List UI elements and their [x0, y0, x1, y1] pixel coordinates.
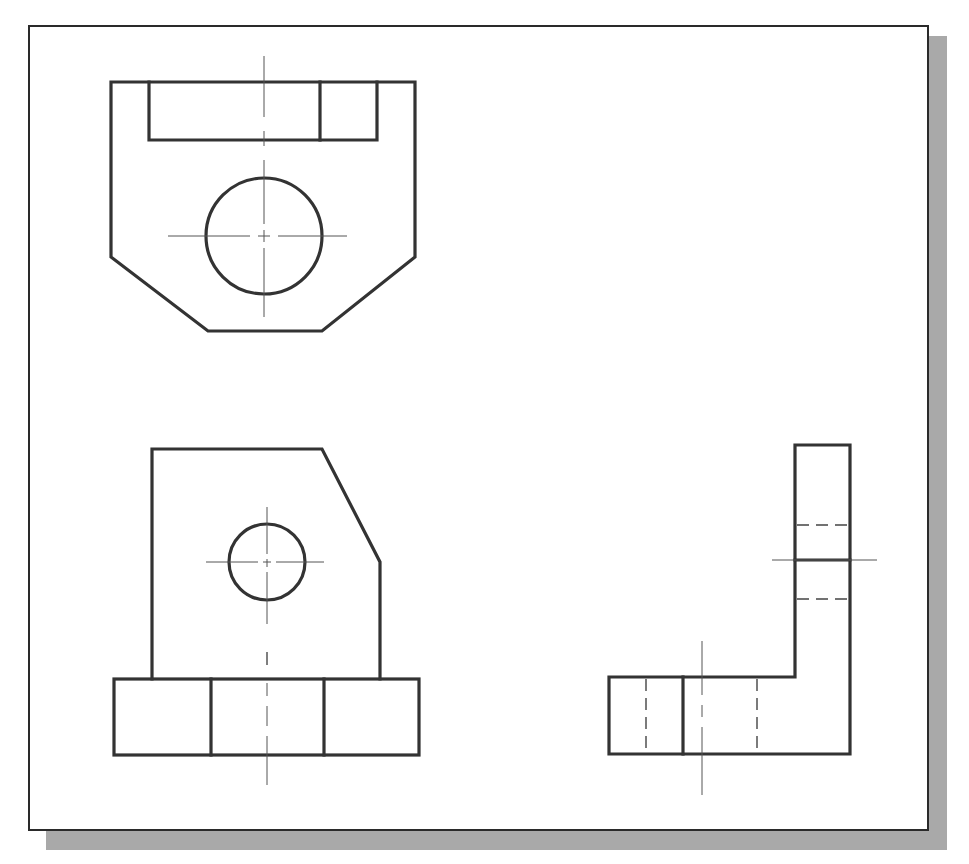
top-view [111, 56, 415, 331]
side-view [609, 445, 877, 795]
top-view-slot [149, 82, 377, 140]
technical-drawing [0, 0, 969, 864]
front-view [114, 449, 419, 785]
front-view-upright [152, 449, 380, 679]
side-view-profile [609, 445, 850, 754]
